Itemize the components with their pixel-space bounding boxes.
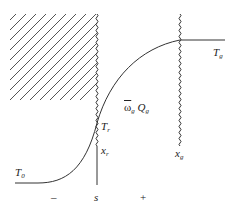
label-xr: xr <box>101 145 109 158</box>
label-surface: s <box>94 192 98 203</box>
label-minus: – <box>51 192 57 203</box>
label-plus: + <box>140 192 146 203</box>
label-T0: T0 <box>15 167 25 180</box>
label-heat-release: ωg Qg <box>124 102 149 115</box>
temperature-profile-curve <box>15 40 225 183</box>
label-Tr: Tr <box>101 121 110 134</box>
surface-interface-line <box>96 14 98 185</box>
temperature-profile-diagram <box>0 0 232 211</box>
label-Tg: Tg <box>213 47 223 60</box>
reaction-zone-boundary-line <box>179 14 181 146</box>
label-xg: xg <box>175 148 183 161</box>
